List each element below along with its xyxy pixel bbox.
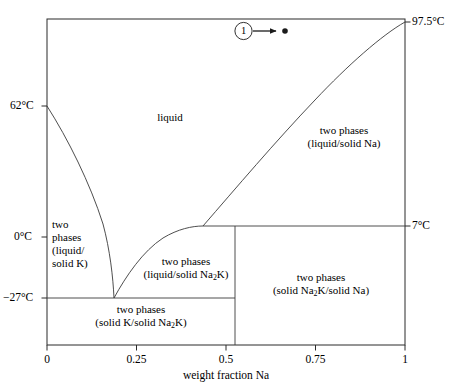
region-label-solid-na2k-solid-na-line2-post: K/solid Na) [317, 284, 369, 296]
region-label-liquid-solid-na2k: two phases (liquid/solid Na2K) [128, 255, 244, 282]
region-label-liquid-solid-k-line4: solid K) [52, 257, 88, 270]
region-label-solid-na2k-solid-na-line1: two phases [255, 271, 387, 284]
region-label-solid-k-solid-na2k-line2-post: K) [175, 316, 187, 328]
x-label-0-25: 0.25 [116, 353, 157, 367]
region-label-liquid-solid-k-line2: phases [52, 231, 88, 244]
x-label-0-5: 0.5 [209, 353, 243, 367]
region-label-solid-na2k-solid-na: two phases (solid Na2K/solid Na) [255, 271, 387, 298]
region-label-solid-k-solid-na2k-line1: two phases [76, 303, 206, 316]
phase-diagram-figure: 62°C 0°C −27°C 97.5°C 7°C 0 0.25 0.5 0.7… [0, 0, 450, 391]
region-label-solid-na2k-solid-na-line2-pre: (solid Na [273, 284, 314, 296]
region-label-solid-k-solid-na2k: two phases (solid K/solid Na2K) [76, 303, 206, 330]
region-label-liquid-solid-k-line1: two [52, 218, 88, 231]
region-label-liquid-solid-na2k-line2-pre: (liquid/solid Na [144, 268, 213, 280]
phase-diagram-canvas [0, 0, 450, 391]
y-label-minus27c: −27°C [3, 291, 33, 305]
x-label-0: 0 [37, 353, 57, 367]
region-label-solid-k-solid-na2k-line2: (solid K/solid Na2K) [76, 316, 206, 330]
y-label-7c: 7°C [412, 219, 430, 233]
region-label-liquid: liquid [140, 111, 200, 124]
region-label-liquid-solid-na2k-line2-post: K) [217, 268, 229, 280]
y-label-97-5c: 97.5°C [412, 15, 444, 29]
region-label-liquid-solid-na2k-line2: (liquid/solid Na2K) [128, 268, 244, 282]
callout-label-1: 1 [235, 25, 252, 37]
x-label-1: 1 [395, 353, 415, 367]
region-label-solid-k-solid-na2k-line2-pre: (solid K/solid Na [95, 316, 171, 328]
callout-target-dot [282, 28, 288, 34]
region-label-solid-na2k-solid-na-line2: (solid Na2K/solid Na) [255, 284, 387, 298]
y-label-0c: 0°C [14, 230, 32, 244]
x-axis-title: weight fraction Na [156, 369, 296, 383]
region-label-liquid-solid-k: two phases (liquid/ solid K) [52, 218, 88, 270]
region-label-liquid-solid-na2k-line1: two phases [128, 255, 244, 268]
region-label-liquid-solid-k-line3: (liquid/ [52, 244, 88, 257]
region-label-liquid-solid-na-line2: (liquid/solid Na) [283, 137, 405, 150]
region-label-liquid-solid-na: two phases (liquid/solid Na) [283, 124, 405, 150]
x-label-0-75: 0.75 [295, 353, 336, 367]
y-label-62c: 62°C [10, 99, 34, 113]
region-label-liquid-solid-na-line1: two phases [283, 124, 405, 137]
